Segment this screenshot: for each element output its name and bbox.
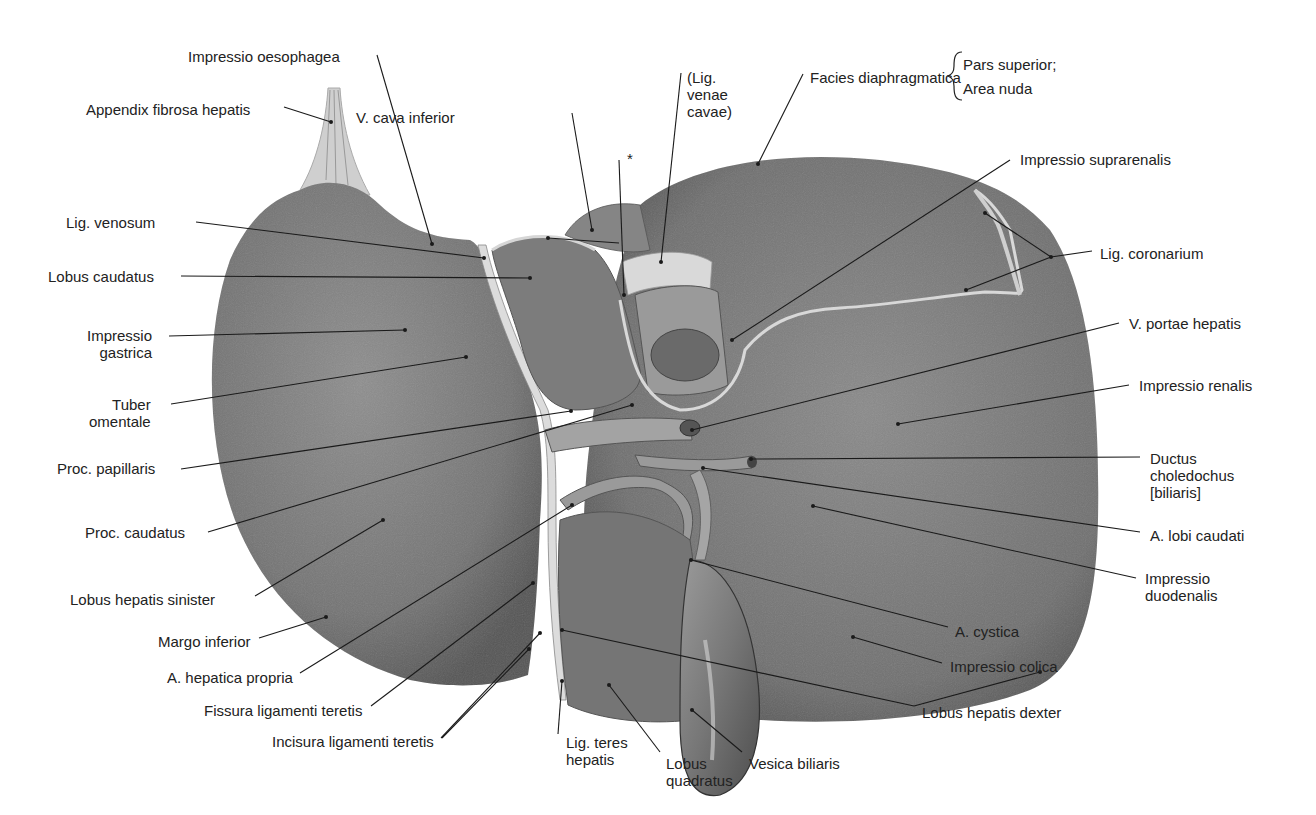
label-impressio-duodenalis: Impressio duodenalis <box>1145 570 1218 604</box>
label-impressio-gastrica: Impressio gastrica <box>87 327 152 361</box>
label-appendix-fibrosa-hepatis: Appendix fibrosa hepatis <box>86 101 250 118</box>
label-vesica-biliaris: Vesica biliaris <box>749 755 840 772</box>
liver-diagram: Impressio oesophageaAppendix fibrosa hep… <box>0 0 1316 815</box>
dot-facies-diaphragmatica <box>756 162 760 166</box>
leader-v-cava-inferior <box>572 113 592 230</box>
label-pars-superior: Pars superior; <box>963 56 1056 73</box>
label-facies-diaphragmatica: Facies diaphragmatica <box>810 69 961 86</box>
label-tuber-omentale: Tuber omentale <box>89 396 151 430</box>
dot-impressio-gastrica <box>403 328 407 332</box>
dot-v-portae-hepatis <box>690 428 694 432</box>
dot-impressio-duodenalis <box>811 504 815 508</box>
label-impressio-suprarenalis: Impressio suprarenalis <box>1020 151 1171 168</box>
dot-impressio-renalis <box>896 422 900 426</box>
label-a-cystica: A. cystica <box>955 623 1019 640</box>
label-fissura-ligamenti-teretis: Fissura ligamenti teretis <box>204 702 362 719</box>
leader-facies-diaphragmatica <box>758 74 803 164</box>
dot-lobus-hepatis-dexter <box>560 628 564 632</box>
dot-extra-0 <box>546 236 550 240</box>
label-area-nuda: Area nuda <box>963 80 1032 97</box>
dot-impressio-colica <box>851 635 855 639</box>
dot-vesica-biliaris <box>690 708 694 712</box>
dot-ductus-choledochus <box>749 457 753 461</box>
label-lig-teres-hepatis: Lig. teres hepatis <box>566 734 628 768</box>
appendix-fibrosa <box>300 88 370 195</box>
dot-lig-coronarium <box>1049 255 1053 259</box>
label-lig-coronarium: Lig. coronarium <box>1100 245 1203 262</box>
dot-fissura-ligamenti-teretis <box>531 581 535 585</box>
label-lobus-caudatus: Lobus caudatus <box>48 268 154 285</box>
label-impressio-oesophagea: Impressio oesophagea <box>188 48 340 65</box>
label-incisura-ligamenti-teretis: Incisura ligamenti teretis <box>272 733 434 750</box>
dot-tuber-omentale <box>464 355 468 359</box>
leader-appendix-fibrosa-hepatis <box>284 107 331 122</box>
label-lobus-hepatis-sinister: Lobus hepatis sinister <box>70 591 215 608</box>
dot-lobus-hepatis-sinister <box>381 518 385 522</box>
label-v-portae-hepatis: V. portae hepatis <box>1129 315 1241 332</box>
lobus-quadratus-shape <box>558 512 697 722</box>
label-lig-venosum: Lig. venosum <box>66 214 155 231</box>
label-a-lobi-caudati: A. lobi caudati <box>1150 527 1244 544</box>
dot-lig-teres-hepatis <box>560 679 564 683</box>
label-asterisk: * <box>627 150 633 167</box>
dot-extra-1 <box>983 211 987 215</box>
label-ductus-choledochus: Ductus choledochus [biliaris] <box>1150 450 1234 501</box>
label-margo-inferior: Margo inferior <box>158 633 251 650</box>
dot-a-cystica <box>689 558 693 562</box>
dot-appendix-fibrosa-hepatis <box>329 120 333 124</box>
dot-v-cava-inferior <box>590 228 594 232</box>
dot-lobus-quadratus <box>607 683 611 687</box>
dot-incisura-ligamenti-teretis <box>527 647 531 651</box>
dot-margo-inferior <box>324 615 328 619</box>
dot-proc-caudatus <box>630 403 634 407</box>
label-lobus-hepatis-dexter: Lobus hepatis dexter <box>922 704 1061 721</box>
dot-asterisk <box>622 293 626 297</box>
dot-lig-venosum <box>482 256 486 260</box>
label-impressio-colica: Impressio colica <box>950 658 1058 675</box>
dot-lig-venae-cavae <box>659 260 663 264</box>
dot-impressio-oesophagea <box>430 242 434 246</box>
liver-illustration <box>0 0 1316 815</box>
dot-a-hepatica-propria <box>570 503 574 507</box>
label-impressio-renalis: Impressio renalis <box>1139 377 1252 394</box>
dot-impressio-suprarenalis <box>730 338 734 342</box>
label-proc-caudatus: Proc. caudatus <box>85 524 185 541</box>
dot-lobus-caudatus <box>528 276 532 280</box>
label-lobus-quadratus: Lobus quadratus <box>666 755 733 789</box>
dot-extra-3 <box>538 631 542 635</box>
label-a-hepatica-propria: A. hepatica propria <box>167 669 293 686</box>
dot-a-lobi-caudati <box>701 466 705 470</box>
dot-proc-papillaris <box>569 409 573 413</box>
dot-extra-2 <box>964 288 968 292</box>
label-v-cava-inferior: V. cava inferior <box>356 109 455 126</box>
label-proc-papillaris: Proc. papillaris <box>57 460 155 477</box>
label-lig-venae-cavae: (Lig. venae cavae) <box>687 69 732 120</box>
